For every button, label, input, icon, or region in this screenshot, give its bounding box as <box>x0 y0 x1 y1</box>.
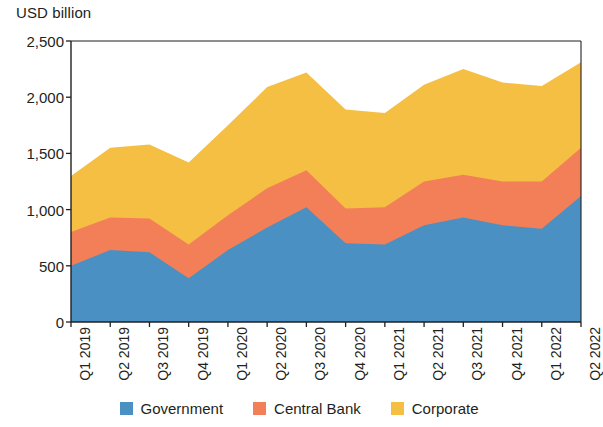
x-tick-label: Q1 2020 <box>234 327 250 381</box>
y-tick-marks-group <box>66 41 71 322</box>
legend-item-government[interactable]: Government <box>120 400 224 417</box>
y-tick-label: 1,500 <box>6 145 64 162</box>
legend-label: Central Bank <box>274 400 361 417</box>
legend-item-central-bank[interactable]: Central Bank <box>253 400 361 417</box>
area-series-group <box>71 62 581 322</box>
x-tick-label: Q4 2019 <box>195 327 211 381</box>
legend-swatch-icon <box>120 402 133 415</box>
x-tick-label: Q3 2019 <box>155 327 171 381</box>
y-tick-label: 2,000 <box>6 89 64 106</box>
x-tick-label: Q2 2019 <box>116 327 132 381</box>
y-tick-label: 500 <box>6 257 64 274</box>
y-tick-label: 1,000 <box>6 201 64 218</box>
x-tick-label: Q3 2021 <box>469 327 485 381</box>
x-tick-label: Q3 2020 <box>312 327 328 381</box>
x-tick-label: Q1 2021 <box>391 327 407 381</box>
legend-swatch-icon <box>391 402 404 415</box>
legend-swatch-icon <box>253 402 266 415</box>
x-tick-label: Q4 2021 <box>509 327 525 381</box>
x-tick-label: Q4 2020 <box>352 327 368 381</box>
legend-label: Government <box>141 400 224 417</box>
x-tick-label: Q1 2022 <box>548 327 564 381</box>
y-tick-label: 0 <box>6 314 64 331</box>
x-tick-label: Q2 2021 <box>430 327 446 381</box>
x-tick-label: Q2 2020 <box>273 327 289 381</box>
x-tick-label: Q1 2019 <box>77 327 93 381</box>
x-tick-label: Q2 2022 <box>587 327 603 381</box>
chart-legend: GovernmentCentral BankCorporate <box>0 400 598 417</box>
y-tick-label: 2,500 <box>6 33 64 50</box>
legend-label: Corporate <box>412 400 479 417</box>
legend-item-corporate[interactable]: Corporate <box>391 400 479 417</box>
